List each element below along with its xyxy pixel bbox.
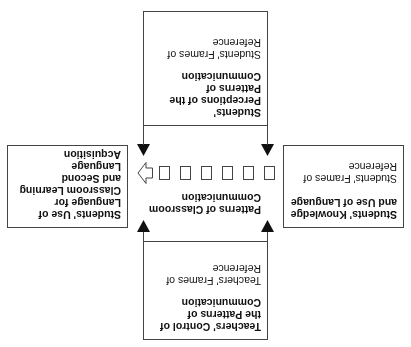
teachers-control-box: Teachers' Control of the Patterns of Com… bbox=[143, 241, 268, 340]
title-line: and Use of Language bbox=[290, 197, 397, 209]
arrow-up-left-icon bbox=[260, 144, 274, 156]
title-line: Language Acquisition bbox=[14, 149, 121, 173]
students-perceptions-box: Students' Perceptions of the Patterns of… bbox=[143, 11, 268, 126]
subtitle-line: Students' Frames of bbox=[290, 173, 397, 185]
students-frames-text: Students' Frames of Reference bbox=[290, 161, 397, 185]
title-line: Teachers' Control of bbox=[150, 321, 261, 333]
sequence-square bbox=[222, 166, 233, 180]
arrow-down-left-icon bbox=[260, 220, 274, 232]
title-line: Classroom Learning bbox=[14, 185, 121, 197]
title-line: Students' Use of bbox=[14, 209, 121, 221]
arrow-up-right-icon bbox=[136, 144, 150, 156]
title-line: Communication bbox=[150, 71, 261, 83]
patterns-classroom-title: Patterns of Classroom Communication bbox=[141, 192, 261, 216]
title-line: Students' Knowledge bbox=[290, 209, 397, 221]
title-line: Communication bbox=[141, 192, 261, 204]
sequence-square bbox=[264, 166, 275, 180]
title-line: Students' bbox=[150, 107, 261, 119]
sequence-square bbox=[159, 166, 170, 180]
diagram-canvas: Teachers' Control of the Patterns of Com… bbox=[0, 0, 411, 347]
hollow-arrow-right-icon bbox=[137, 162, 153, 184]
students-knowledge-box: Students' Knowledge and Use of Language … bbox=[283, 145, 404, 228]
students-knowledge-title: Students' Knowledge and Use of Language bbox=[290, 197, 397, 221]
subtitle-line: Reference bbox=[150, 37, 261, 49]
teachers-control-title: Teachers' Control of the Patterns of Com… bbox=[150, 297, 261, 333]
title-line: Patterns of Classroom bbox=[141, 204, 261, 216]
students-use-box: Students' Use of Language for Classroom … bbox=[7, 145, 128, 228]
arrow-down-right-icon bbox=[136, 220, 150, 232]
teachers-frames-text: Teachers' Frames of Reference bbox=[150, 263, 261, 287]
sequence-square bbox=[180, 166, 191, 180]
sequence-square bbox=[243, 166, 254, 180]
subtitle-line: Teachers' Frames of bbox=[150, 275, 261, 287]
connector-line-right-bottom bbox=[143, 125, 144, 145]
subtitle-line: Students' Frames of bbox=[150, 49, 261, 61]
title-line: Language for bbox=[14, 197, 121, 209]
subtitle-line: Reference bbox=[150, 263, 261, 275]
connector-line-left-bottom bbox=[267, 125, 268, 145]
title-line: Patterns of bbox=[150, 83, 261, 95]
students-frames-text: Students' Frames of Reference bbox=[150, 37, 261, 61]
subtitle-line: Reference bbox=[290, 161, 397, 173]
sequence-square bbox=[201, 166, 212, 180]
title-line: and Second bbox=[14, 173, 121, 185]
title-line: Perceptions of the bbox=[150, 95, 261, 107]
title-line: the Patterns of bbox=[150, 309, 261, 321]
students-perceptions-title: Students' Perceptions of the Patterns of… bbox=[150, 71, 261, 119]
students-use-title: Students' Use of Language for Classroom … bbox=[14, 149, 121, 221]
title-line: Communication bbox=[150, 297, 261, 309]
